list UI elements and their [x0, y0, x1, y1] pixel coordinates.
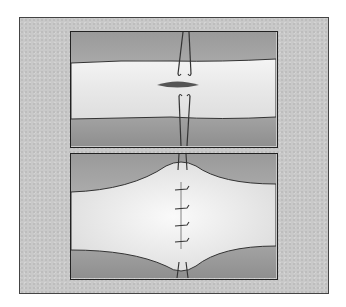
panel-bottom-closure — [70, 153, 278, 280]
panel-top-incision — [70, 31, 278, 148]
